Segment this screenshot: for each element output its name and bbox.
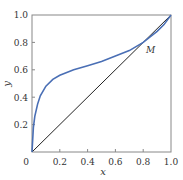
x-tick-label: 0 — [23, 157, 29, 167]
y-tick-label: 1.0 — [14, 10, 29, 20]
y-axis-label: y — [1, 81, 12, 88]
point-m-label: M — [145, 45, 156, 55]
y-tick-label: 0.8 — [14, 38, 29, 48]
y-tick-label: 0.6 — [14, 65, 29, 75]
x-tick-label: 0.4 — [80, 157, 95, 167]
x-tick-label: 0.2 — [53, 157, 67, 167]
x-axis-label: x — [100, 166, 106, 177]
y-tick-label: 0.4 — [14, 93, 29, 103]
x-tick-label: 1.0 — [164, 157, 179, 167]
y-tick-label: 0.2 — [14, 120, 28, 130]
chart: 1.0 0.8 0.6 0.4 0.2 0 0.2 0.4 0.6 0.8 1.… — [0, 0, 183, 180]
x-tick-label: 0.8 — [136, 157, 151, 167]
x-tick-label: 0.6 — [108, 157, 123, 167]
diagonal-line — [32, 15, 171, 152]
